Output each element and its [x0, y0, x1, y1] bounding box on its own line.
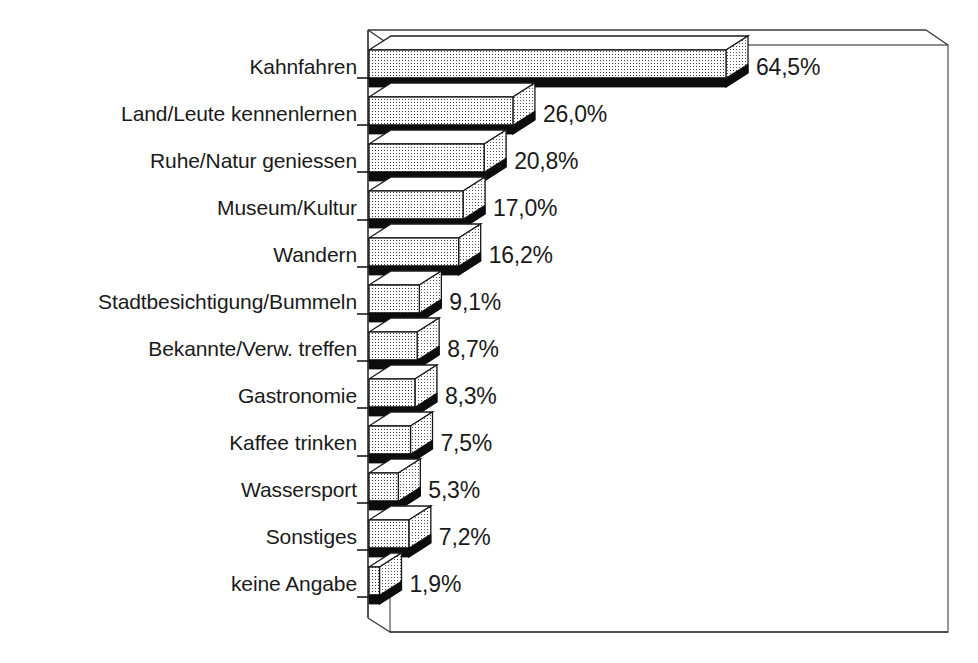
value-label: 8,7%	[447, 338, 499, 361]
value-label: 9,1%	[449, 291, 501, 314]
value-label: 17,0%	[493, 197, 557, 220]
value-label: 64,5%	[756, 56, 820, 79]
bar	[369, 83, 535, 134]
frame-bottom-slant	[368, 618, 390, 632]
value-label: 1,9%	[410, 573, 462, 596]
category-label: Wassersport	[241, 479, 357, 500]
bar-top-face	[369, 130, 506, 144]
chart-canvas	[0, 0, 978, 663]
bar-front-face	[369, 426, 411, 454]
bar-front-face	[369, 285, 419, 313]
value-label: 5,3%	[428, 479, 480, 502]
bar	[369, 412, 433, 463]
bar-front-face	[369, 50, 726, 78]
bar-front-face	[369, 97, 513, 125]
category-label: Kaffee trinken	[229, 432, 357, 453]
category-label: Stadtbesichtigung/Bummeln	[98, 291, 357, 312]
category-label: Kahnfahren	[249, 56, 357, 77]
bar-front-face	[369, 379, 415, 407]
bar	[369, 318, 439, 369]
bar-top-face	[369, 83, 535, 97]
category-label: keine Angabe	[231, 573, 357, 594]
category-label: Ruhe/Natur geniessen	[150, 150, 357, 171]
bar-front-face	[369, 144, 484, 172]
bar-front-face	[369, 520, 409, 548]
value-label: 8,3%	[445, 385, 497, 408]
bar-top-face	[369, 36, 748, 50]
value-label: 26,0%	[543, 103, 607, 126]
bar-front-face	[369, 191, 463, 219]
bar-front-face	[369, 332, 417, 360]
bar	[369, 130, 506, 181]
category-label: Land/Leute kennenlernen	[121, 103, 357, 124]
bar-shadow-band	[369, 595, 380, 604]
category-label: Museum/Kultur	[217, 197, 357, 218]
category-label: Sonstiges	[266, 526, 357, 547]
bar-chart: KahnfahrenLand/Leute kennenlernenRuhe/Na…	[0, 0, 978, 663]
value-label: 7,2%	[439, 526, 491, 549]
bar-front-face	[369, 567, 380, 595]
value-label: 7,5%	[441, 432, 493, 455]
category-label: Wandern	[273, 244, 357, 265]
bar	[369, 271, 441, 322]
frame-top-right-slant	[926, 30, 948, 45]
value-label: 16,2%	[489, 244, 553, 267]
value-label: 20,8%	[514, 150, 578, 173]
bar	[369, 177, 485, 228]
category-label: Bekannte/Verw. treffen	[148, 338, 357, 359]
category-label: Gastronomie	[238, 385, 357, 406]
bar	[369, 224, 481, 275]
bar-front-face	[369, 473, 398, 501]
bar	[369, 365, 437, 416]
bar-front-face	[369, 238, 459, 266]
bar	[369, 506, 431, 557]
bar	[369, 36, 748, 87]
